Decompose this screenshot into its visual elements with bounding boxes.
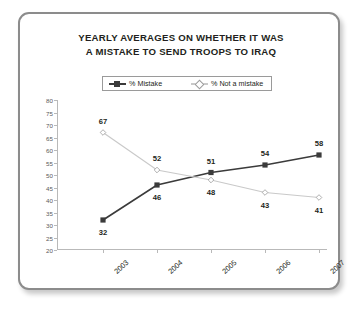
data-point-label: 32: [99, 228, 107, 237]
data-point-label: 46: [153, 193, 161, 202]
data-point-label: 48: [207, 188, 215, 197]
data-point-label: 67: [99, 116, 107, 125]
data-point-marker: [100, 217, 105, 222]
series-layer: [57, 100, 327, 250]
data-point-marker: [262, 162, 267, 167]
data-point-label: 58: [315, 139, 323, 148]
legend-item-mistake: % Mistake: [109, 77, 162, 90]
data-point-marker: [316, 195, 322, 201]
data-point-label: 43: [261, 200, 269, 209]
open-diamond-marker-icon: [191, 78, 208, 89]
x-axis-tick-label: 2006: [274, 258, 292, 276]
y-axis-tick-label: 25: [46, 234, 53, 241]
x-axis-tick-mark: [319, 250, 320, 253]
legend-item-not-a-mistake: % Not a mistake: [191, 77, 263, 90]
x-axis-tick-label: 2007: [328, 258, 346, 276]
legend-label-mistake: % Mistake: [129, 79, 162, 88]
y-axis-tick-label: 20: [46, 247, 53, 254]
y-axis-tick-label: 60: [46, 147, 53, 154]
y-axis-tick-label: 80: [46, 97, 53, 104]
y-axis-tick-label: 65: [46, 134, 53, 141]
filled-square-marker-icon: [109, 78, 126, 89]
legend-label-not-a-mistake: % Not a mistake: [211, 79, 263, 88]
data-point-label: 52: [153, 154, 161, 163]
x-axis-tick-mark: [157, 250, 158, 253]
chart-title-line-2: A MISTAKE TO SEND TROOPS TO IRAQ: [20, 45, 342, 59]
data-point-marker: [154, 182, 159, 187]
x-axis-tick-label: 2003: [112, 258, 130, 276]
data-point-marker: [208, 170, 213, 175]
y-axis-tick-label: 55: [46, 159, 53, 166]
y-axis-tick-label: 35: [46, 209, 53, 216]
y-axis-tick-label: 70: [46, 122, 53, 129]
x-axis-tick-mark: [265, 250, 266, 253]
x-axis-tick-label: 2005: [220, 258, 238, 276]
y-axis-tick-mark: [54, 250, 57, 251]
y-axis-tick-label: 50: [46, 172, 53, 179]
data-point-marker: [208, 177, 214, 183]
chart-legend: % Mistake % Not a mistake: [102, 76, 272, 91]
chart-figure: YEARLY AVERAGES ON WHETHER IT WAS A MIST…: [0, 0, 359, 311]
chart-card: YEARLY AVERAGES ON WHETHER IT WAS A MIST…: [18, 12, 340, 290]
plot-area: 20253035404550556065707580 2003200420052…: [57, 100, 327, 250]
data-point-label: 41: [315, 205, 323, 214]
y-axis-tick-label: 40: [46, 197, 53, 204]
x-axis-tick-mark: [103, 250, 104, 253]
data-point-label: 54: [261, 149, 269, 158]
y-axis-tick-label: 45: [46, 184, 53, 191]
y-axis-tick-label: 30: [46, 222, 53, 229]
chart-title: YEARLY AVERAGES ON WHETHER IT WAS A MIST…: [20, 31, 342, 58]
data-point-marker: [316, 152, 321, 157]
data-point-label: 51: [207, 156, 215, 165]
y-axis-tick-label: 75: [46, 109, 53, 116]
x-axis-tick-label: 2004: [166, 258, 184, 276]
data-point-marker: [262, 190, 268, 196]
chart-title-line-1: YEARLY AVERAGES ON WHETHER IT WAS: [20, 31, 342, 45]
x-axis-tick-mark: [211, 250, 212, 253]
